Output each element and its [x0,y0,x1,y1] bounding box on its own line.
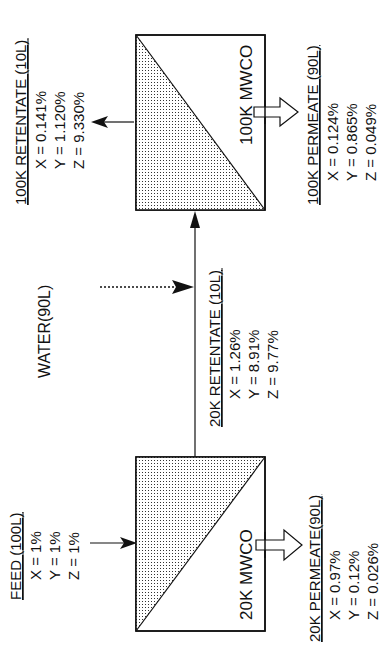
retentate-100k-label-block: 100K RETENTATE (10L) X = 0.141% Y = 1.12… [12,40,87,205]
retentate-20k-label-block: 20K RETENTATE (10L) X = 1.26% Y = 8.91% … [206,270,281,427]
permeate-100k-label-block: 100K PERMEATE (90L) X = 0.124% Y = 0.865… [304,45,379,205]
water-label-block: WATER(90L) [36,285,53,378]
feed-title: FEED (100L) [7,512,24,600]
process-diagram: 100K MWCO 20K MWCO 100K RETENTAT [0,0,390,658]
arrow-up-icon [190,211,200,228]
retentate-100k-x: X = 0.141% [32,91,49,169]
permeate-100k-x: X = 0.124% [324,103,341,181]
retentate-100k-y: Y = 1.120% [51,91,68,169]
retentate-20k-title: 20K RETENTATE (10L) [206,270,223,427]
feed-label-block: FEED (100L) X = 1% Y = 1% Z = 1% [7,512,82,600]
retentate-100k-outlet-arrow [91,116,134,128]
retentate-100k-title: 100K RETENTATE (10L) [12,40,29,205]
permeate-20k-y: Y = 0.12% [345,551,362,620]
permeate-100k-z: Z = 0.049% [362,104,379,181]
box-100k-mwco: 100K MWCO [136,35,265,210]
retentate-20k-y: Y = 8.91% [245,330,262,399]
retentate-100k-z: Z = 9.330% [70,92,87,169]
retentate-20k-x: X = 1.26% [226,329,243,399]
feed-z: Z = 1% [65,532,82,580]
arrow-right-icon [172,280,194,294]
feed-x: X = 1% [27,531,44,580]
permeate-20k-z: Z = 0.026% [364,543,381,620]
retentate-20k-z: Z = 9.77% [264,330,281,399]
feed-inlet-arrow [90,537,137,549]
permeate-100k-y: Y = 0.865% [343,103,360,181]
permeate-20k-x: X = 0.97% [326,550,343,620]
permeate-20k-label-block: 20K PERMEATE(90L) X = 0.97% Y = 0.12% Z … [306,495,381,642]
permeate-20k-title: 20K PERMEATE(90L) [306,495,323,642]
water-inlet-arrow [100,280,194,294]
water-title: WATER(90L) [36,285,53,378]
retentate-20k-connector [190,211,200,457]
permeate-100k-title: 100K PERMEATE (90L) [304,45,321,205]
feed-y: Y = 1% [46,531,63,580]
box-100k-label: 100K MWCO [237,45,256,145]
box-20k-label: 20K MWCO [237,529,256,620]
box-20k-mwco: 20K MWCO [136,457,265,631]
